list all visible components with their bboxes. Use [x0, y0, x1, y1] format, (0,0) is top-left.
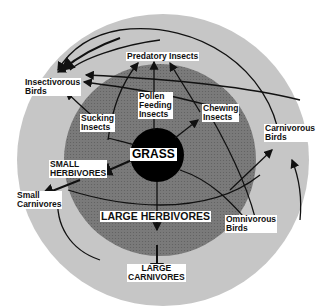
node-small-carnivores: Small Carnivores — [16, 191, 62, 209]
node-carnivorous-line2: Birds — [265, 133, 315, 142]
node-insectivorous-birds: Insectivorous Birds — [24, 78, 81, 96]
node-omnivorous-line2: Birds — [226, 224, 276, 233]
node-small-herbivores: SMALL HERBIVORES — [49, 160, 107, 178]
node-small-herbivores-line2: HERBIVORES — [50, 169, 106, 178]
node-large-carnivores: LARGE CARNIVORES — [127, 264, 186, 282]
node-chewing-line2: Insects — [203, 113, 238, 122]
node-grass: GRASS — [130, 148, 177, 161]
node-carnivorous-birds: Carnivorous Birds — [264, 124, 316, 142]
node-sucking-line2: Insects — [81, 123, 114, 132]
node-sucking-insects: Sucking Insects — [80, 114, 115, 132]
node-large-carnivores-line2: CARNIVORES — [128, 273, 185, 282]
node-chewing-insects: Chewing Insects — [202, 104, 239, 122]
node-small-carnivores-line2: Carnivores — [17, 200, 61, 209]
node-pollen-line3: Insects — [139, 110, 172, 119]
node-large-herbivores: LARGE HERBIVORES — [100, 211, 211, 222]
node-predatory-insects: Predatory Insects — [126, 52, 199, 61]
node-insectivorous-birds-line2: Birds — [25, 87, 80, 96]
node-omnivorous-birds: Omnivorous Birds — [225, 215, 277, 233]
node-pollen-feeding-insects: Pollen Feeding Insects — [138, 92, 173, 119]
